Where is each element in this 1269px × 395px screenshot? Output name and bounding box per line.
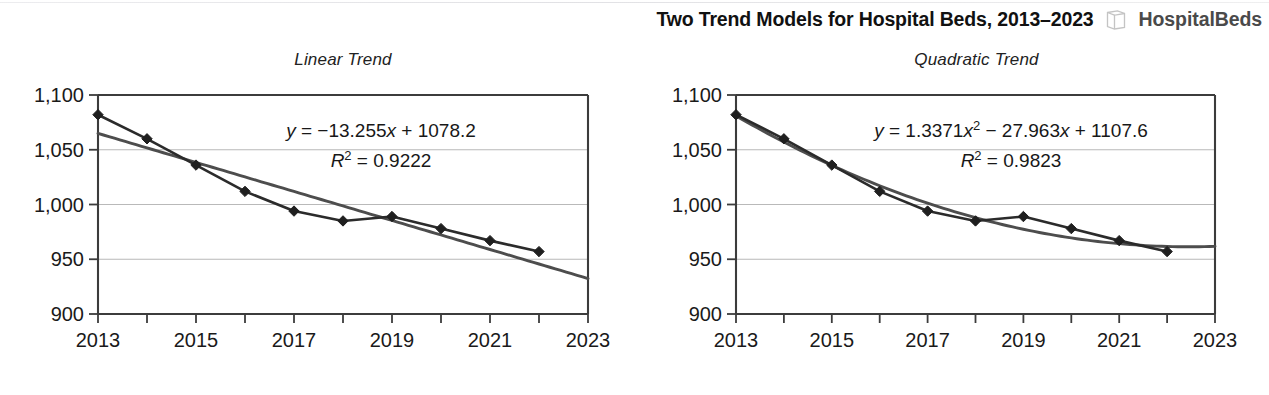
svg-text:2015: 2015 [174, 329, 219, 351]
svg-text:900: 900 [51, 303, 84, 325]
svg-text:y = 1.3371x2 − 27.963x + 1107.: y = 1.3371x2 − 27.963x + 1107.6 [872, 118, 1148, 142]
chart-linear-trend: Linear Trend 9009501,0001,0501,100201320… [6, 50, 636, 360]
svg-text:1,100: 1,100 [672, 84, 722, 106]
svg-text:2015: 2015 [810, 329, 855, 351]
page-title: Two Trend Models for Hospital Beds, 2013… [656, 8, 1093, 31]
chart-plot-quadratic: 9009501,0001,0501,1002013201520172019202… [648, 50, 1269, 360]
chart-plot-linear: 9009501,0001,0501,1002013201520172019202… [6, 50, 636, 360]
svg-text:R2 = 0.9222: R2 = 0.9222 [331, 148, 432, 172]
svg-text:2021: 2021 [1097, 329, 1142, 351]
svg-text:2017: 2017 [905, 329, 950, 351]
svg-text:1,000: 1,000 [34, 194, 84, 216]
svg-text:y = −13.255x + 1078.2: y = −13.255x + 1078.2 [284, 120, 476, 141]
svg-text:2023: 2023 [566, 329, 611, 351]
workbook-name-label: HospitalBeds [1139, 8, 1262, 31]
svg-text:2021: 2021 [468, 329, 513, 351]
figure-header: Two Trend Models for Hospital Beds, 2013… [0, 8, 1262, 31]
svg-text:950: 950 [689, 248, 722, 270]
svg-text:950: 950 [51, 248, 84, 270]
file-document-icon [1104, 9, 1129, 31]
svg-text:1,050: 1,050 [34, 139, 84, 161]
chart-quadratic-trend: Quadratic Trend 9009501,0001,0501,100201… [648, 50, 1269, 360]
svg-text:2013: 2013 [714, 329, 759, 351]
svg-text:2019: 2019 [1001, 329, 1046, 351]
svg-text:R2 = 0.9823: R2 = 0.9823 [961, 148, 1062, 172]
svg-text:2013: 2013 [76, 329, 121, 351]
svg-text:2023: 2023 [1193, 329, 1238, 351]
svg-text:1,100: 1,100 [34, 84, 84, 106]
svg-text:900: 900 [689, 303, 722, 325]
svg-text:2019: 2019 [370, 329, 415, 351]
page-scan-edge [0, 2, 1269, 3]
svg-text:1,050: 1,050 [672, 139, 722, 161]
svg-text:2017: 2017 [272, 329, 317, 351]
svg-text:1,000: 1,000 [672, 194, 722, 216]
